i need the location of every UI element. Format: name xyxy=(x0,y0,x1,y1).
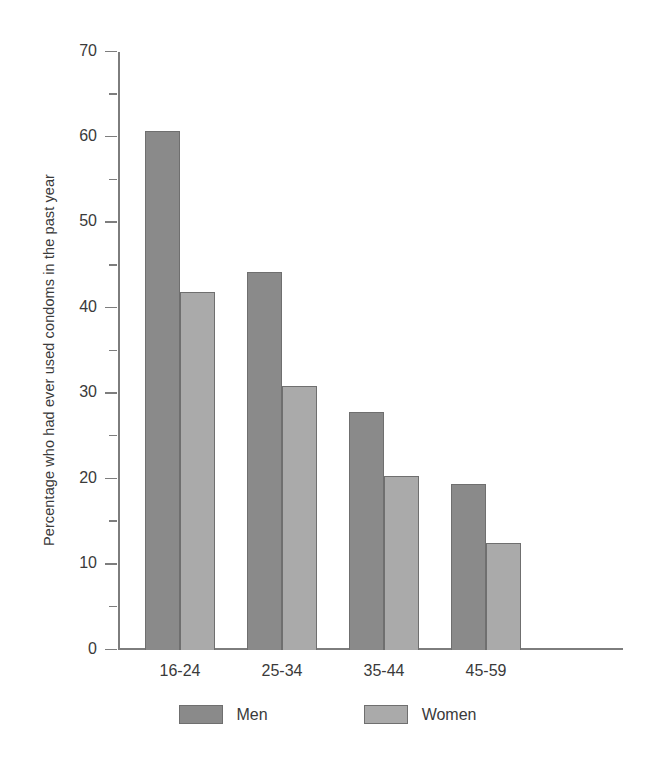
y-axis-tick-label: 50 xyxy=(79,212,97,230)
y-axis-tick-minor xyxy=(109,520,117,522)
y-axis-tick-minor xyxy=(109,264,117,266)
y-axis-tick-minor xyxy=(109,179,117,181)
y-axis-tick-label: 0 xyxy=(88,640,97,658)
bar-women-35-44 xyxy=(384,476,419,650)
y-axis-tick-major: 60 xyxy=(105,136,117,138)
bar-men-25-34 xyxy=(247,272,282,650)
y-axis-title: Percentage who had ever used condoms in … xyxy=(41,100,57,620)
legend-swatch-men xyxy=(179,705,223,724)
bar-men-35-44 xyxy=(349,412,384,650)
legend-swatch-women xyxy=(364,705,408,724)
y-axis-tick-major: 10 xyxy=(105,563,117,565)
y-axis-tick-minor xyxy=(109,435,117,437)
bar-chart: Percentage who had ever used condoms in … xyxy=(0,0,655,770)
x-axis-group-label: 25-34 xyxy=(262,662,303,680)
y-axis-tick-minor xyxy=(109,93,117,95)
legend-label-men: Men xyxy=(237,706,268,724)
bar-women-45-59 xyxy=(486,543,521,650)
y-axis-line xyxy=(118,52,120,650)
bar-women-25-34 xyxy=(282,386,317,650)
legend-entry-women: Women xyxy=(364,705,477,724)
y-axis-tick-label: 70 xyxy=(79,42,97,60)
plot-area: 706050403020100 16-2425-3435-4445-59All … xyxy=(118,52,623,650)
y-axis-tick-major: 0 xyxy=(105,649,117,651)
y-axis-tick-major: 40 xyxy=(105,307,117,309)
y-axis-tick-label: 30 xyxy=(79,383,97,401)
y-axis-tick-major: 50 xyxy=(105,221,117,223)
y-axis-tick-minor xyxy=(109,606,117,608)
y-axis-tick-minor xyxy=(109,350,117,352)
y-axis-tick-label: 60 xyxy=(79,127,97,145)
x-axis-group-label: 45-59 xyxy=(466,662,507,680)
bar-men-16-24 xyxy=(145,131,180,650)
chart-legend: MenWomen xyxy=(0,705,655,724)
y-axis-tick-major: 30 xyxy=(105,392,117,394)
bar-men-45-59 xyxy=(451,484,486,650)
y-axis-tick-major: 20 xyxy=(105,478,117,480)
y-axis-tick-label: 20 xyxy=(79,469,97,487)
legend-entry-men: Men xyxy=(179,705,268,724)
y-axis-tick-label: 40 xyxy=(79,298,97,316)
y-axis-tick-label: 10 xyxy=(79,554,97,572)
x-axis-group-label: 16-24 xyxy=(160,662,201,680)
bar-women-16-24 xyxy=(180,292,215,650)
y-axis-tick-major: 70 xyxy=(105,51,117,53)
legend-label-women: Women xyxy=(422,706,477,724)
x-axis-group-label: 35-44 xyxy=(364,662,405,680)
